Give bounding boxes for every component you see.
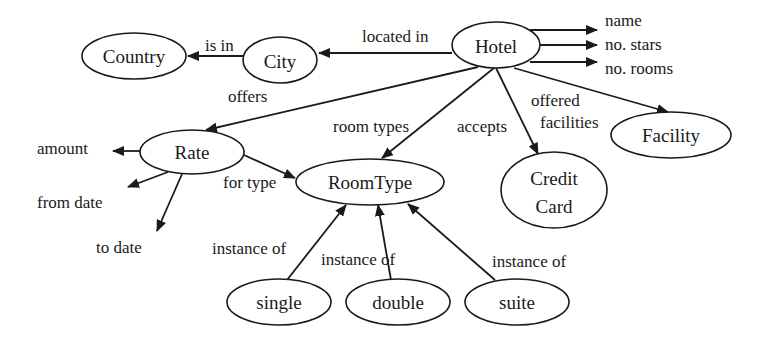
edge-hotel-creditcard — [496, 68, 538, 154]
edge-label-for-type: for type — [223, 173, 276, 192]
edge-hotel-roomtype — [382, 68, 494, 158]
attr-hotel-name: name — [605, 11, 642, 30]
node-facility: Facility — [611, 112, 731, 158]
node-label-suite: suite — [499, 292, 535, 313]
edge-label-instance-of-double: instance of — [321, 250, 395, 269]
node-label-country: Country — [103, 46, 166, 67]
attr-rate-to-date: to date — [96, 238, 142, 257]
node-label-creditcard-line2: Card — [536, 196, 573, 217]
edge-label-is-in: is in — [205, 36, 234, 55]
node-single: single — [227, 279, 331, 325]
attr-rate-amount: amount — [37, 139, 88, 158]
node-label-rate: Rate — [175, 142, 210, 163]
node-label-single: single — [256, 292, 301, 313]
edge-suite-roomtype — [408, 204, 495, 280]
edge-rate-fromdate — [128, 172, 168, 187]
node-double: double — [346, 279, 450, 325]
node-label-hotel: Hotel — [475, 36, 517, 57]
node-hotel: Hotel — [452, 22, 540, 68]
edge-label-room-types: room types — [333, 117, 409, 136]
edge-label-accepts: accepts — [457, 117, 507, 136]
edge-label-offers: offers — [228, 87, 267, 106]
attr-hotel-stars: no. stars — [605, 35, 662, 54]
hotel-semantic-network-diagram: Country City Hotel Rate RoomType Credit … — [0, 0, 769, 344]
edge-rate-todate — [157, 174, 182, 231]
node-creditcard: Credit Card — [501, 152, 607, 228]
node-label-creditcard-line1: Credit — [530, 168, 578, 189]
edge-label-facilities-line2: facilities — [540, 113, 599, 132]
node-country: Country — [82, 33, 186, 79]
node-label-roomtype: RoomType — [328, 172, 412, 193]
node-rate: Rate — [140, 130, 244, 174]
node-label-city: City — [264, 51, 297, 72]
node-label-double: double — [372, 292, 424, 313]
edge-label-instance-of-suite: instance of — [492, 252, 566, 271]
node-label-facility: Facility — [642, 125, 701, 146]
edge-label-offered-line1: offered — [531, 91, 580, 110]
attr-hotel-rooms: no. rooms — [605, 59, 673, 78]
node-suite: suite — [465, 279, 569, 325]
edge-label-located-in: located in — [362, 27, 429, 46]
node-city: City — [243, 37, 317, 83]
node-roomtype: RoomType — [296, 159, 444, 205]
attr-rate-from-date: from date — [37, 193, 103, 212]
edge-label-instance-of-single: instance of — [212, 239, 286, 258]
